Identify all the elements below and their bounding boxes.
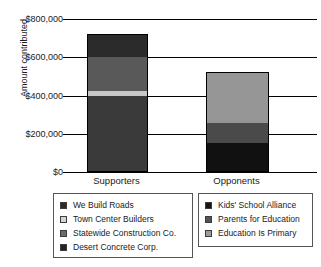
legend-item[interactable]: We Build Roads [60, 198, 192, 212]
y-axis-tick-label: $0 [7, 167, 63, 177]
x-axis-tick-label: Opponents [206, 175, 267, 186]
bar-segment [207, 123, 268, 143]
legend-supporters: We Build RoadsTown Center BuildersStatew… [53, 193, 193, 258]
bar-supporters [87, 34, 148, 172]
legend-swatch-icon [205, 202, 212, 209]
legend-item-label: Education Is Primary [218, 228, 296, 238]
y-axis-tick-label: $600,000 [7, 52, 63, 62]
legend-swatch-icon [205, 216, 212, 223]
bar-segment [88, 35, 147, 57]
x-axis-tick-label: Supporters [87, 175, 146, 186]
y-axis-tick-label: $200,000 [7, 129, 63, 139]
legend-swatch-icon [205, 230, 212, 237]
legend-swatch-icon [60, 244, 67, 251]
legend-item[interactable]: Desert Concrete Corp. [60, 240, 192, 254]
legend-item[interactable]: Kids' School Alliance [205, 198, 312, 212]
legend-item-label: We Build Roads [73, 200, 134, 210]
stacked-bar-chart: Amount contributed $0$200,000$400,000$60… [0, 0, 321, 267]
legend-item-label: Desert Concrete Corp. [73, 242, 158, 252]
bar-opponents [206, 72, 269, 172]
legend-item[interactable]: Parents for Education [205, 212, 312, 226]
legend-swatch-icon [60, 230, 67, 237]
plot-area [63, 0, 317, 173]
legend-item-label: Kids' School Alliance [218, 200, 296, 210]
legend-item-label: Town Center Builders [73, 214, 154, 224]
bar-segment [207, 143, 268, 171]
legend-opponents: Kids' School AllianceParents for Educati… [198, 193, 313, 247]
legend-item[interactable]: Education Is Primary [205, 226, 312, 240]
bar-segment [88, 96, 147, 171]
bar-segment [88, 57, 147, 90]
legend-item[interactable]: Town Center Builders [60, 212, 192, 226]
y-axis-tick-label: $800,000 [7, 14, 63, 24]
legend-item[interactable]: Statewide Construction Co. [60, 226, 192, 240]
legend-item-label: Statewide Construction Co. [73, 228, 176, 238]
y-axis-tick-label: $400,000 [7, 91, 63, 101]
bar-segment [207, 73, 268, 123]
legend-swatch-icon [60, 202, 67, 209]
legend-item-label: Parents for Education [218, 214, 300, 224]
legend-swatch-icon [60, 216, 67, 223]
